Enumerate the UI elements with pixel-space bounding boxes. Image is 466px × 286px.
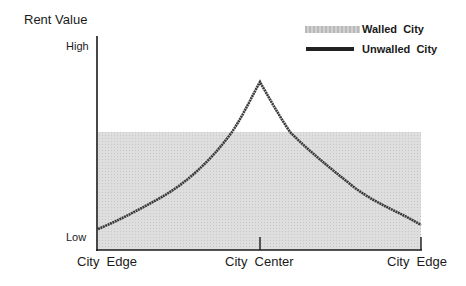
unwalled-swatch-icon <box>306 47 354 51</box>
x-tick-center: City Center <box>225 254 294 269</box>
y-axis-title: Rent Value <box>24 12 87 27</box>
legend-unwalled-city: Unwalled City <box>306 43 437 55</box>
x-tick-right-edge: City Edge <box>387 254 447 269</box>
legend-unwalled-label: Unwalled City <box>362 43 437 55</box>
walled-city-area <box>98 132 421 250</box>
y-tick-low: Low <box>66 231 86 243</box>
x-tick-left-edge: City Edge <box>77 254 137 269</box>
walled-swatch-icon <box>305 26 360 33</box>
y-tick-high: High <box>66 40 89 52</box>
legend-walled-city: Walled City <box>305 23 424 35</box>
legend-walled-label: Walled City <box>362 23 424 35</box>
